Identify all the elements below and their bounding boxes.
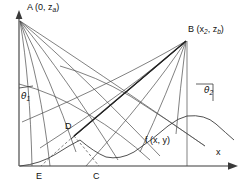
rays-from-a-group: [19, 21, 205, 166]
y-axis-arrowhead: [16, 10, 23, 19]
label-point-a: A (0, za): [27, 3, 59, 12]
wavefront-arc-b: [60, 66, 205, 146]
label-theta2: θ2: [204, 86, 213, 95]
label-point-d: D: [65, 122, 72, 131]
angle-ticks-group: [19, 84, 213, 101]
label-point-b: B (x2, zb): [188, 25, 224, 34]
dashed-d-to-e: [41, 136, 74, 166]
principal-ray-group: [71, 41, 186, 139]
figure-container: A (0, za) B (x2, zb) θ1 θ2 D f (x, y) E …: [0, 0, 252, 193]
rays-from-b-group: [22, 41, 205, 166]
x-axis-arrowhead: [228, 162, 238, 169]
label-axis-x: x: [216, 148, 221, 157]
ray-a-2: [20, 21, 160, 156]
ray-a-3: [20, 21, 118, 160]
label-function-f: f (x, y): [145, 136, 170, 145]
label-point-c: C: [93, 172, 100, 181]
label-point-e: E: [36, 172, 42, 181]
label-theta1: θ1: [21, 92, 30, 101]
ray-b-2: [40, 41, 186, 148]
